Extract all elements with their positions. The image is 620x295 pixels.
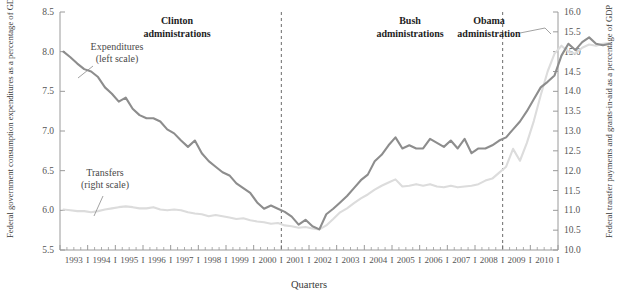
dual-axis-line-chart: Federal government consumption expenditu… — [0, 0, 620, 295]
x-tick-label: 1995 — [120, 255, 139, 265]
y-axis-left: 5.56.06.57.07.58.08.5 — [42, 7, 65, 255]
y-tick-label-right: 15.5 — [564, 27, 581, 37]
y-tick-label-right: 12.0 — [564, 166, 581, 176]
x-tick-separator: I — [529, 255, 532, 265]
expenditures-label-line1: Expenditures — [91, 41, 144, 52]
y-tick-label-left: 6.0 — [42, 205, 54, 215]
annotation-obama: Obama administration — [457, 15, 551, 39]
x-tick-label: 2002 — [314, 255, 332, 265]
x-tick-label: 1994 — [93, 255, 112, 265]
x-tick-separator: I — [474, 255, 477, 265]
transfers-label-line2: (right scale) — [81, 179, 129, 191]
y-tick-label-right: 13.5 — [564, 106, 581, 116]
x-tick-label: 2005 — [397, 255, 416, 265]
x-tick-separator: I — [197, 255, 200, 265]
x-tick-separator: I — [557, 255, 560, 265]
x-tick-separator: I — [252, 255, 255, 265]
annotation-bush-line2: administrations — [376, 28, 443, 39]
x-tick-label: 2007 — [452, 255, 471, 265]
x-tick-label: 2009 — [508, 255, 527, 265]
y-axis-title-right: Federal transfer payments and grants-in-… — [604, 5, 614, 238]
transfers-label-line1: Transfers — [86, 167, 124, 178]
x-tick-separator: I — [446, 255, 449, 265]
annotation-obama-line1: Obama — [473, 15, 505, 26]
y-axis-title-left: Federal government consumption expenditu… — [5, 0, 15, 238]
x-tick-label: 2001 — [286, 255, 304, 265]
x-axis-title: Quarters — [291, 279, 327, 290]
y-tick-label-left: 7.0 — [42, 126, 54, 136]
y-tick-label-right: 14.5 — [564, 67, 581, 77]
x-tick-label: 1993 — [65, 255, 84, 265]
annotation-clinton-line2: administrations — [143, 28, 210, 39]
data-series — [63, 37, 609, 229]
x-tick-label: 2004 — [369, 255, 388, 265]
annotation-obama-line2: administration — [457, 28, 521, 39]
y-tick-label-right: 10.5 — [564, 225, 581, 235]
y-tick-label-left: 8.5 — [42, 7, 54, 17]
y-tick-label-left: 8.0 — [42, 47, 54, 57]
x-tick-separator: I — [363, 255, 366, 265]
x-axis-ticks — [60, 245, 558, 250]
x-tick-separator: I — [418, 255, 421, 265]
x-tick-separator: I — [501, 255, 504, 265]
x-tick-label: 1997 — [176, 255, 195, 265]
series-line-transfers — [63, 43, 609, 229]
y-tick-label-left: 6.5 — [42, 166, 54, 176]
y-tick-label-right: 10.0 — [564, 245, 581, 255]
x-tick-label: 2006 — [425, 255, 444, 265]
x-tick-label: 2000 — [259, 255, 278, 265]
obama-leader-line — [520, 28, 551, 34]
y-tick-label-right: 11.5 — [564, 186, 581, 196]
x-tick-separator: I — [308, 255, 311, 265]
x-tick-separator: I — [225, 255, 228, 265]
y-tick-label-right: 14.0 — [564, 86, 581, 96]
transfers-leader-line — [94, 196, 103, 216]
x-tick-label: 2008 — [480, 255, 499, 265]
x-tick-label: 1999 — [231, 255, 250, 265]
y-tick-label-left: 5.5 — [42, 245, 54, 255]
chart-figure: Federal government consumption expenditu… — [0, 0, 620, 295]
x-tick-label: 2003 — [342, 255, 361, 265]
x-tick-separator: I — [114, 255, 117, 265]
annotation-clinton-line1: Clinton — [161, 15, 194, 26]
y-tick-label-left: 7.5 — [42, 86, 54, 96]
y-tick-label-right: 12.5 — [564, 146, 581, 156]
y-tick-label-right: 11.0 — [564, 205, 581, 215]
annotation-bush-line1: Bush — [399, 15, 421, 26]
annotation-clinton: Clinton administrations — [143, 15, 210, 39]
x-tick-separator: I — [280, 255, 283, 265]
x-tick-label: 2010 — [535, 255, 554, 265]
y-tick-label-right: 16.0 — [564, 7, 581, 17]
annotation-bush: Bush administrations — [376, 15, 443, 39]
x-axis-labels: 1993I1994I1995I1996I1997I1998I1999I2000I… — [65, 255, 560, 265]
series-line-expenditures — [63, 37, 609, 229]
y-tick-label-right: 13.0 — [564, 126, 581, 136]
x-tick-separator: I — [86, 255, 89, 265]
x-tick-label: 1996 — [148, 255, 167, 265]
series-label-expenditures: Expenditures (left scale) — [78, 41, 143, 78]
x-tick-label: 1998 — [203, 255, 222, 265]
administration-dividers — [281, 12, 502, 250]
x-tick-separator: I — [335, 255, 338, 265]
x-tick-separator: I — [391, 255, 394, 265]
expenditures-label-line2: (left scale) — [96, 53, 138, 65]
x-tick-separator: I — [169, 255, 172, 265]
x-tick-separator: I — [142, 255, 145, 265]
